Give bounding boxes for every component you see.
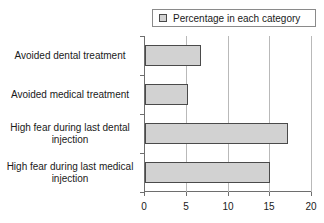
x-axis-tick bbox=[228, 192, 229, 196]
y-axis-tick bbox=[140, 153, 144, 154]
category-label: High fear during last medicalinjection bbox=[0, 161, 140, 185]
x-axis-tick bbox=[186, 192, 187, 196]
x-axis-tick-label: 20 bbox=[305, 201, 316, 212]
x-axis-tick-label: 5 bbox=[183, 201, 189, 212]
y-axis-tick bbox=[140, 114, 144, 115]
x-axis-tick-label: 0 bbox=[141, 201, 147, 212]
y-axis-tick bbox=[140, 36, 144, 37]
x-axis-tick bbox=[144, 192, 145, 196]
x-axis-tick bbox=[269, 192, 270, 196]
y-axis-tick bbox=[140, 192, 144, 193]
category-label: High fear during last dentalinjection bbox=[0, 122, 140, 146]
category-label-line: Avoided medical treatment bbox=[0, 89, 140, 101]
category-label-line: High fear during last dental bbox=[0, 122, 140, 134]
category-label: Avoided dental treatment bbox=[0, 50, 140, 62]
bar bbox=[145, 84, 188, 105]
category-label: Avoided medical treatment bbox=[0, 89, 140, 101]
y-axis-tick bbox=[140, 75, 144, 76]
x-gridline bbox=[311, 36, 312, 192]
x-axis-tick bbox=[311, 192, 312, 196]
category-axis-labels: Avoided dental treatmentAvoided medical … bbox=[0, 36, 140, 192]
chart-legend: Percentage in each category bbox=[152, 9, 316, 27]
bar bbox=[145, 45, 201, 66]
category-label-line: High fear during last medical bbox=[0, 161, 140, 173]
legend-label: Percentage in each category bbox=[173, 13, 300, 24]
category-label-line: injection bbox=[0, 134, 140, 146]
x-axis-tick-label: 15 bbox=[263, 201, 274, 212]
category-label-line: Avoided dental treatment bbox=[0, 50, 140, 62]
legend-color-swatch bbox=[159, 14, 167, 22]
plot-area: 05101520 bbox=[144, 36, 311, 192]
category-label-line: injection bbox=[0, 173, 140, 185]
bar bbox=[145, 162, 270, 183]
bar bbox=[145, 123, 288, 144]
x-axis-tick-label: 10 bbox=[222, 201, 233, 212]
